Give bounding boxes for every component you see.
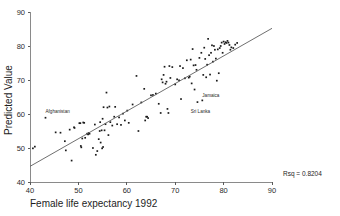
data-point xyxy=(34,146,36,148)
data-point xyxy=(109,106,111,108)
data-point xyxy=(80,146,82,148)
data-point xyxy=(196,69,198,71)
point-annotation: Sri Lanka xyxy=(191,109,211,114)
data-point xyxy=(124,120,126,122)
data-point xyxy=(230,49,232,51)
data-point xyxy=(197,101,199,103)
data-point xyxy=(116,123,118,125)
data-point xyxy=(120,124,122,126)
y-axis-title: Predicted Value xyxy=(3,65,14,135)
rsq-annotation: Rsq = 0.8204 xyxy=(283,170,322,178)
data-point xyxy=(210,52,212,54)
x-tick-label: 70 xyxy=(171,186,179,195)
data-point xyxy=(161,78,163,80)
data-point xyxy=(106,92,108,94)
data-point xyxy=(114,106,116,108)
data-point xyxy=(96,150,98,152)
data-point xyxy=(113,116,115,118)
data-point xyxy=(169,65,171,67)
data-point xyxy=(199,57,201,59)
data-point xyxy=(229,44,231,46)
data-point xyxy=(186,59,188,61)
data-point xyxy=(136,75,138,77)
data-point xyxy=(65,150,67,152)
data-point xyxy=(215,58,217,60)
data-point xyxy=(81,138,83,140)
data-point xyxy=(166,81,168,83)
data-point xyxy=(60,132,62,134)
point-annotation: Jamaica xyxy=(202,93,220,98)
data-point xyxy=(102,146,104,148)
data-point xyxy=(128,122,130,124)
data-point xyxy=(147,117,149,119)
y-tick-label: 70 xyxy=(17,76,25,85)
data-point xyxy=(201,100,203,102)
data-point xyxy=(204,58,206,60)
y-tick-label: 60 xyxy=(17,110,25,119)
data-point xyxy=(218,72,220,74)
data-point xyxy=(211,44,213,46)
data-point xyxy=(103,106,105,108)
data-point xyxy=(138,130,140,132)
data-point xyxy=(143,88,145,90)
x-tick-label: 60 xyxy=(123,186,131,195)
data-point xyxy=(100,142,102,144)
data-point xyxy=(217,49,219,51)
data-point xyxy=(108,134,110,136)
data-point xyxy=(99,130,101,132)
x-tick-label: 40 xyxy=(26,186,34,195)
data-point xyxy=(226,42,228,44)
data-point xyxy=(192,48,194,50)
data-point xyxy=(221,42,223,44)
data-point xyxy=(193,65,195,67)
data-point xyxy=(84,137,86,139)
data-point xyxy=(168,112,170,114)
x-axis-title: Female life expectancy 1992 xyxy=(30,198,158,209)
data-point xyxy=(163,74,165,76)
data-point xyxy=(79,122,81,124)
data-point xyxy=(74,127,76,129)
data-point xyxy=(32,147,34,149)
y-tick-label: 40 xyxy=(17,178,25,187)
data-point xyxy=(220,45,222,47)
data-point xyxy=(219,47,221,49)
data-point xyxy=(118,117,120,119)
data-point xyxy=(179,65,181,67)
data-point xyxy=(223,41,225,43)
data-point xyxy=(214,49,216,51)
data-point xyxy=(170,77,172,79)
data-point xyxy=(207,38,209,40)
x-tick-label: 80 xyxy=(219,186,227,195)
data-point xyxy=(236,42,238,44)
scatter-plot: 405060708090405060708090 AfghanistanJama… xyxy=(0,0,340,216)
data-point xyxy=(194,89,196,91)
data-point xyxy=(202,74,204,76)
data-point xyxy=(99,121,101,123)
point-annotation: Afghanistan xyxy=(45,109,70,114)
data-point xyxy=(101,129,103,131)
data-point xyxy=(132,104,134,106)
data-point xyxy=(109,121,111,123)
y-tick-label: 80 xyxy=(17,42,25,51)
data-point xyxy=(216,80,218,82)
data-point xyxy=(232,47,234,49)
data-point xyxy=(195,64,197,66)
data-point xyxy=(205,76,207,78)
data-point xyxy=(209,74,211,76)
data-point xyxy=(158,103,160,105)
data-point xyxy=(83,122,85,124)
data-point xyxy=(200,52,202,54)
chart-container: 405060708090405060708090 AfghanistanJama… xyxy=(0,0,340,216)
data-point xyxy=(64,140,66,142)
data-point xyxy=(224,43,226,45)
data-point xyxy=(171,66,173,68)
data-point xyxy=(102,118,104,120)
data-point xyxy=(222,52,224,54)
data-point xyxy=(176,78,178,80)
data-point xyxy=(208,54,210,56)
data-point xyxy=(164,66,166,68)
data-point xyxy=(111,125,113,127)
data-point xyxy=(180,98,182,100)
data-point xyxy=(213,45,215,47)
data-point xyxy=(162,82,164,84)
